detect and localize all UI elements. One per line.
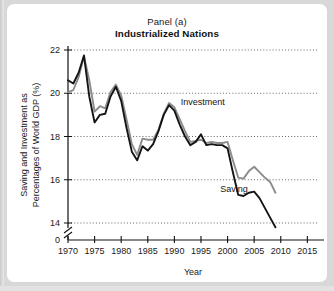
- x-tick-label-1990: 1990: [164, 246, 184, 256]
- x-tick-label-2010: 2010: [271, 246, 291, 256]
- y-tick-label-22: 22: [50, 45, 60, 55]
- y-tick-label-0: 0: [55, 235, 60, 245]
- series-label-investment: Investment: [181, 97, 226, 107]
- x-tick-label-1975: 1975: [85, 246, 105, 256]
- x-tick-label-2015: 2015: [297, 246, 317, 256]
- x-tick-label-2000: 2000: [218, 246, 238, 256]
- series-line-investment: [68, 56, 275, 192]
- y-tick-label-16: 16: [50, 175, 60, 185]
- figure-container: Panel (a) Industrialized Nations 1416182…: [0, 0, 334, 291]
- bottom-edge-shadow: [0, 286, 334, 291]
- series-line-saving: [68, 55, 275, 227]
- x-tick-label-1970: 1970: [58, 246, 78, 256]
- chart-card: Panel (a) Industrialized Nations 1416182…: [7, 4, 327, 282]
- x-axis-title: Year: [184, 267, 202, 277]
- data-series-group: [68, 55, 275, 227]
- left-edge-shadow: [0, 0, 4, 291]
- x-axis-group: 1970197519801985199019952000200520102015: [58, 236, 324, 256]
- gridlines-group: [68, 50, 318, 223]
- y-axis-group: 14161820220: [50, 45, 72, 245]
- x-tick-label-2005: 2005: [244, 246, 264, 256]
- y-tick-label-18: 18: [50, 132, 60, 142]
- y-axis-title-line-2: Percentages of World GDP (%): [31, 83, 41, 208]
- y-axis-title-line-1: Saving and Investment as: [19, 93, 29, 197]
- y-tick-label-20: 20: [50, 88, 60, 98]
- y-tick-label-14: 14: [50, 218, 60, 228]
- line-chart-plot: 14161820220 1970197519801985199019952000…: [7, 4, 327, 282]
- x-tick-label-1985: 1985: [138, 246, 158, 256]
- series-label-saving: Saving: [220, 184, 248, 194]
- x-tick-label-1995: 1995: [191, 246, 211, 256]
- x-tick-label-1980: 1980: [111, 246, 131, 256]
